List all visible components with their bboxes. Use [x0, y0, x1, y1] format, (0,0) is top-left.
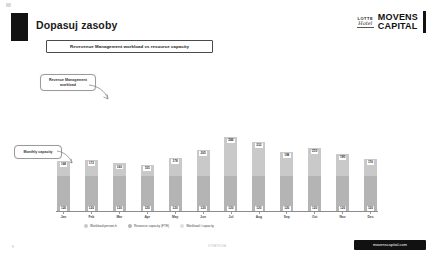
x-axis-tick — [279, 212, 294, 215]
x-axis-ticks — [56, 212, 378, 215]
bar-value-label-bottom: 120 — [88, 206, 96, 211]
legend-item[interactable]: Workload / capacity — [180, 224, 214, 228]
callout-capacity: Monthly capacity — [14, 145, 62, 159]
legend-label: Resource capacity (FTE) — [134, 224, 169, 228]
lotte-logo: LOTTE Hotel — [357, 17, 374, 28]
bar-column[interactable]: 205120 — [196, 133, 211, 212]
bar-value-label-bottom: 120 — [311, 206, 319, 211]
lotte-script-text: Hotel — [358, 21, 372, 26]
bar[interactable]: 205120 — [197, 150, 210, 212]
bar[interactable]: 168120 — [57, 161, 70, 212]
bar-column[interactable]: 176120 — [363, 133, 378, 212]
x-axis-tick — [251, 212, 266, 215]
callout-workload-label: Revenue Management workload — [41, 78, 95, 88]
bar-value-label-top: 198 — [283, 153, 291, 158]
bar-value-label-bottom: 120 — [227, 206, 235, 211]
movens-line-2: CAPITAL — [378, 22, 418, 31]
bar-column[interactable]: 210120 — [307, 133, 322, 212]
brand-logo: LOTTE Hotel MOVENS CAPITAL — [357, 11, 426, 33]
bar-value-label-bottom: 120 — [283, 206, 291, 211]
bar-value-label-top: 246 — [227, 139, 235, 144]
bar-column[interactable]: 168120 — [56, 133, 71, 212]
bar-value-label-top: 232 — [255, 143, 263, 148]
bar[interactable]: 176120 — [364, 159, 377, 212]
bar-column[interactable]: 190120 — [335, 133, 350, 212]
legend-swatch — [84, 224, 88, 228]
x-axis-label: Dec — [363, 215, 378, 219]
legend-swatch — [180, 224, 184, 228]
subtitle-text: Revevenue Management workload vs resourc… — [70, 44, 189, 49]
title-accent-block — [11, 13, 28, 41]
bar-value-label-bottom: 120 — [171, 206, 179, 211]
bar-value-label-bottom: 120 — [199, 206, 207, 211]
bar-group: 1681201721201601201551201781202051202461… — [56, 133, 378, 212]
legend-item[interactable]: Resource capacity (FTE) — [128, 224, 169, 228]
x-axis-label: Mar — [112, 215, 127, 219]
chart-plot-area: 1681201721201601201551201781202051202461… — [56, 133, 378, 212]
x-axis-tick — [140, 212, 155, 215]
x-axis-label: Apr — [140, 215, 155, 219]
legend-swatch — [128, 224, 132, 228]
bar[interactable]: 232120 — [252, 142, 265, 212]
x-axis-tick — [363, 212, 378, 215]
bar-column[interactable]: 172120 — [84, 133, 99, 212]
window-marker — [6, 3, 11, 7]
x-axis-label: Jun — [196, 215, 211, 219]
bar[interactable]: 172120 — [85, 160, 98, 212]
bar-column[interactable]: 198120 — [279, 133, 294, 212]
bar-value-label-top: 210 — [311, 150, 319, 155]
bar[interactable]: 155120 — [141, 165, 154, 212]
bar-column[interactable]: 246120 — [223, 133, 238, 212]
bar-column[interactable]: 155120 — [140, 133, 155, 212]
bar-column[interactable]: 232120 — [251, 133, 266, 212]
bar-value-label-bottom: 120 — [255, 206, 263, 211]
bar-value-label-top: 168 — [60, 162, 68, 167]
lotte-divider — [357, 27, 374, 28]
legend-item[interactable]: Workload person-h — [84, 224, 117, 228]
slide: Dopasuj zasoby Revevenue Management work… — [0, 0, 434, 259]
callout-workload: Revenue Management workload — [40, 74, 96, 91]
x-axis-tick — [335, 212, 350, 215]
bar-value-label-top: 190 — [339, 156, 347, 161]
website-badge-label: movenscapital.com — [373, 243, 407, 247]
x-axis-tick — [84, 212, 99, 215]
bar[interactable]: 198120 — [280, 152, 293, 212]
bar[interactable]: 210120 — [308, 148, 321, 212]
x-axis-tick — [112, 212, 127, 215]
bar-chart: 1681201721201601201551201781202051202461… — [56, 133, 378, 225]
bar-value-label-top: 178 — [171, 159, 179, 164]
x-axis-label: Nov — [335, 215, 350, 219]
chart-legend: Workload person-hResource capacity (FTE)… — [84, 224, 214, 228]
website-badge[interactable]: movenscapital.com — [354, 240, 426, 250]
x-axis-tick — [168, 212, 183, 215]
x-axis-labels: JanFebMarAprMayJunJulAugSepOctNovDec — [56, 215, 378, 219]
legend-label: Workload / capacity — [186, 224, 214, 228]
bar-value-label-bottom: 120 — [367, 206, 375, 211]
bar[interactable]: 178120 — [169, 158, 182, 212]
bar-value-label-top: 176 — [367, 160, 375, 165]
page-title: Dopasuj zasoby — [36, 19, 117, 31]
x-axis-label: May — [168, 215, 183, 219]
bar[interactable]: 160120 — [113, 163, 126, 212]
bar-value-label-top: 155 — [143, 166, 151, 171]
bar-value-label-bottom: 120 — [143, 206, 151, 211]
subtitle-pill: Revevenue Management workload vs resourc… — [46, 40, 213, 53]
bar-value-label-bottom: 120 — [116, 206, 124, 211]
x-axis-label: Sep — [279, 215, 294, 219]
bar-column[interactable]: 178120 — [168, 133, 183, 212]
x-axis-label: Jan — [56, 215, 71, 219]
x-axis-label: Jul — [223, 215, 238, 219]
legend-label: Workload person-h — [90, 224, 117, 228]
x-axis-label: Feb — [84, 215, 99, 219]
bar-value-label-bottom: 120 — [60, 206, 68, 211]
x-axis-label: Oct — [307, 215, 322, 219]
bar[interactable]: 190120 — [336, 154, 349, 212]
x-axis-tick — [223, 212, 238, 215]
movens-logo: MOVENS CAPITAL — [378, 13, 418, 32]
x-axis-tick — [196, 212, 211, 215]
callout-capacity-label: Monthly capacity — [23, 150, 52, 155]
x-axis-label: Aug — [251, 215, 266, 219]
bar[interactable]: 246120 — [224, 137, 237, 212]
x-axis-tick — [56, 212, 71, 215]
bar-column[interactable]: 160120 — [112, 133, 127, 212]
